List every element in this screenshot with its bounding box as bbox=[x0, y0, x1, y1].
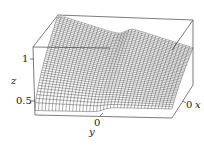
surface-mesh bbox=[35, 17, 193, 112]
surface-wireframe bbox=[35, 17, 193, 112]
x-axis-label: x bbox=[195, 100, 201, 110]
bounding-box-front bbox=[30, 47, 193, 118]
x-tick-0: 0 bbox=[186, 100, 192, 110]
surface-plot bbox=[0, 0, 204, 145]
z-tick-0-5: 0.5 bbox=[16, 96, 32, 106]
z-tick-1: 1 bbox=[22, 54, 28, 64]
y-axis-label: y bbox=[89, 127, 95, 137]
z-axis-label: z bbox=[11, 76, 16, 86]
